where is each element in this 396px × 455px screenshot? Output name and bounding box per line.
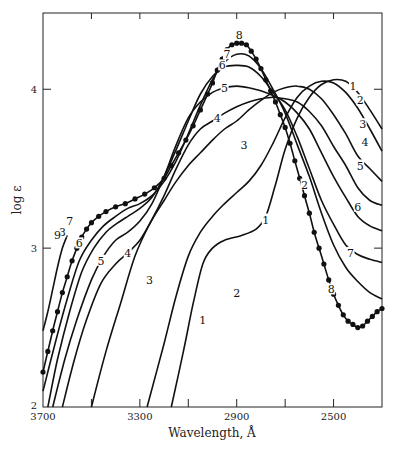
data-point [191,123,196,128]
data-point [244,42,249,47]
data-point [198,107,203,112]
absorption-spectrum-chart: 3700330029002500234 11122233344455566677… [0,0,396,455]
curve-label-6: 6 [354,201,361,214]
data-point [283,125,288,130]
data-point [355,325,360,330]
data-point [258,66,263,71]
curve-label-7: 7 [66,215,73,228]
data-point [379,306,384,311]
curve-line-5 [53,86,382,407]
y-tick-label: 2 [31,400,37,411]
data-point [365,319,370,324]
data-point [142,192,147,197]
x-tick-label: 2900 [224,411,249,422]
x-tick-label: 3700 [30,411,55,422]
curve-label-4: 4 [124,247,131,260]
data-point [161,176,166,181]
data-point [312,230,317,235]
data-point [69,258,74,263]
data-point [45,349,50,354]
data-point [55,309,60,314]
series-5 [53,86,382,407]
curve-label-7: 7 [224,48,231,61]
data-point [268,88,273,93]
data-point [370,314,375,319]
data-point [278,112,283,117]
curve-line-1 [171,79,382,407]
x-axis-title: Wavelength, Å [168,425,256,440]
data-point [50,328,55,333]
curve-label-5: 5 [98,255,105,268]
curve-label-3: 3 [146,274,153,287]
data-point [341,312,346,317]
data-point [103,209,108,214]
data-point [40,369,45,374]
data-point [249,49,254,54]
series-4 [62,97,382,407]
data-point [132,196,137,201]
data-point [321,261,326,266]
plot-frame [43,13,382,407]
data-point [326,277,331,282]
data-point [302,193,307,198]
curve-label-2: 2 [233,287,240,300]
data-point [292,158,297,163]
data-point [84,226,89,231]
curve-label-2: 2 [357,94,364,107]
data-point [360,323,365,328]
curve-label-4: 4 [214,112,221,125]
y-tick-label: 3 [31,243,37,254]
data-point [176,150,181,155]
data-point [307,211,312,216]
data-point [60,290,65,295]
data-point [316,246,321,251]
curve-label-8: 8 [328,283,335,296]
y-axis-title: log ε [10,186,24,215]
data-point [89,220,94,225]
data-point [336,303,341,308]
series-1 [171,79,382,407]
data-point [287,141,292,146]
curve-label-1: 1 [262,214,269,227]
curve-label-7: 7 [347,247,354,260]
data-point [205,91,210,96]
data-point [113,204,118,209]
curve-label-3: 3 [240,139,247,152]
curve-label-5: 5 [221,82,228,95]
curves [40,41,384,407]
curve-label-1: 1 [199,314,206,327]
data-point [273,99,278,104]
x-tick-label: 2500 [321,411,346,422]
x-tick-label: 3300 [127,411,152,422]
curve-label-1: 1 [349,80,356,93]
data-point [123,201,128,206]
curve-label-3: 3 [359,118,366,131]
data-point [229,42,234,47]
curve-line-9 [43,235,67,330]
data-point [253,56,258,61]
curve-label-5: 5 [357,160,364,173]
curve-label-9: 9 [54,229,61,242]
data-point [375,309,380,314]
data-point [152,185,157,190]
series-9 [43,235,67,330]
data-point [263,77,268,82]
data-point [96,214,101,219]
curve-label-8: 8 [236,29,243,42]
curve-label-2: 2 [301,179,308,192]
data-point [346,319,351,324]
data-point [183,137,188,142]
data-point [169,163,174,168]
curve-label-6: 6 [219,59,226,72]
data-point [65,274,70,279]
curve-label-4: 4 [362,136,369,149]
curve-line-4 [62,97,382,407]
y-tick-label: 4 [31,84,37,95]
curve-label-6: 6 [76,237,83,250]
series-8 [40,41,384,375]
data-point [210,80,215,85]
data-point [350,322,355,327]
